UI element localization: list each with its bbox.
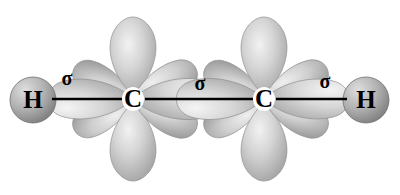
atom-label-hydrogen-right: H — [351, 87, 381, 112]
atom-label-carbon-right: C — [249, 86, 279, 111]
sigma-label-c-c: σ — [187, 73, 213, 93]
sigma-label-h-c-right: σ — [312, 71, 338, 91]
sigma-label-h-c-left: σ — [54, 68, 80, 88]
acetylene-orbital-diagram: H C C H σ σ σ — [0, 0, 400, 195]
atom-label-hydrogen-left: H — [18, 87, 48, 112]
orbital-canvas — [0, 0, 400, 195]
atom-label-carbon-left: C — [118, 86, 148, 111]
